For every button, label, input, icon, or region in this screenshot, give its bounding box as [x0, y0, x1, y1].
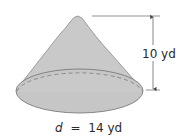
svg-text:d = 14 yd: d = 14 yd	[55, 121, 122, 135]
diameter-label: d = 14 yd	[55, 121, 122, 135]
cone-shape	[16, 16, 143, 113]
cone-diagram: 10 yd d = 14 yd	[0, 0, 184, 138]
diameter-value: 14 yd	[88, 121, 122, 135]
diameter-variable: d	[55, 121, 63, 135]
diameter-equals: =	[70, 121, 80, 135]
height-label: 10 yd	[142, 47, 176, 61]
